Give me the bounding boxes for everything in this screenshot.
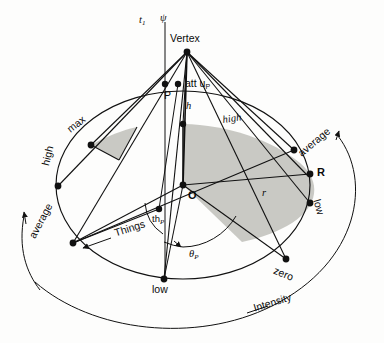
- dot-thp: [156, 206, 162, 212]
- psi-axis-label: ψ: [160, 13, 167, 24]
- t1-axis-label: t1: [139, 15, 145, 27]
- dot-zero: [283, 256, 290, 263]
- r-label: R: [317, 167, 325, 178]
- r-measure-label: r: [262, 188, 266, 199]
- theta-p-label: θP: [189, 249, 198, 261]
- dot-p: [162, 81, 168, 87]
- dot-high-top: [180, 121, 186, 127]
- o-label: O: [188, 190, 197, 201]
- dot-average-left: [70, 240, 77, 247]
- shaded-triangle-max: [91, 127, 137, 160]
- things-arrow: [83, 238, 111, 248]
- dot-low-bottom: [161, 276, 168, 283]
- att-u-label: att uP: [185, 78, 210, 90]
- dot-max: [88, 142, 95, 149]
- cone-diagram: t1 ψ Vertex P att uP O R h r thP θP max …: [0, 0, 384, 343]
- cone-diagram-svg: [0, 0, 384, 343]
- dot-high-left: [55, 183, 62, 190]
- vertical-drop-lines: [159, 84, 183, 209]
- dot-vertex: [184, 49, 191, 56]
- h-label: h: [186, 101, 191, 112]
- dot-o: [180, 182, 187, 189]
- dot-att-u: [175, 81, 181, 87]
- rim-low-bottom: low: [152, 284, 168, 295]
- th-p-label: thP: [152, 214, 164, 226]
- dot-r: [307, 171, 314, 178]
- vertex-label: Vertex: [170, 33, 200, 44]
- p-label: P: [164, 90, 171, 101]
